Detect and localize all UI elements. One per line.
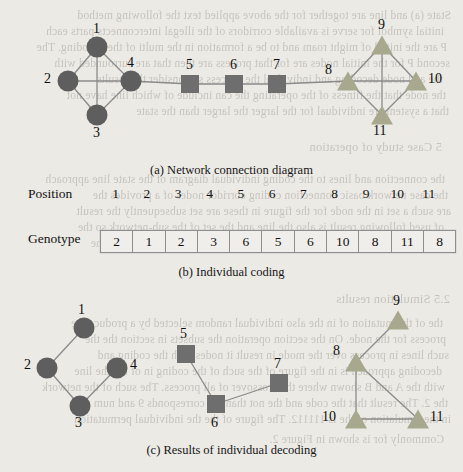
node-label-2: 2 (24, 358, 31, 372)
node-label-11: 11 (430, 410, 443, 424)
graph-node-9 (387, 311, 409, 330)
panel-c-graph (0, 0, 463, 472)
graph-node-6 (207, 395, 225, 413)
graph-node-5 (177, 345, 195, 363)
graph-node-2 (37, 358, 58, 379)
node-label-9: 9 (393, 294, 400, 308)
node-label-3: 3 (75, 416, 82, 430)
graph-node-8 (345, 353, 367, 372)
caption-c: (c) Results of individual decoding (0, 443, 463, 458)
node-label-7: 7 (274, 357, 281, 371)
graph-edge (216, 383, 279, 404)
node-label-10: 10 (322, 410, 336, 424)
node-label-8: 8 (333, 344, 340, 358)
node-label-5: 5 (180, 327, 187, 341)
node-label-1: 1 (78, 303, 85, 317)
figure-container: 1234567891011 (a) Network connection dia… (0, 0, 463, 472)
node-label-4: 4 (130, 358, 137, 372)
graph-node-7 (270, 374, 288, 392)
node-label-6: 6 (211, 416, 218, 430)
graph-node-3 (70, 396, 91, 417)
graph-node-1 (74, 318, 95, 339)
graph-node-4 (107, 358, 128, 379)
